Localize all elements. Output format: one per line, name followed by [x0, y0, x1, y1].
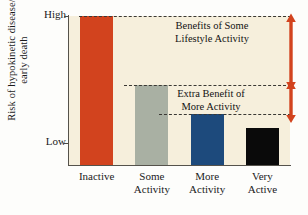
- x-axis-line: [68, 165, 291, 166]
- bar-inactive: [80, 16, 113, 165]
- bar-very-active: [246, 128, 279, 165]
- y-axis-label: Risk of hypokinetic disease/ early death: [6, 0, 30, 140]
- guide-line-some-activity-top: [124, 85, 291, 86]
- annotation-extra-benefit-of-more-activity: Extra Benefit of More Activity: [150, 88, 272, 113]
- guide-line-top: [79, 16, 291, 17]
- arrow-extra-benefit-range: [281, 80, 301, 124]
- annotation-benefits-of-some-lifestyle-activity: Benefits of Some Lifestyle Activity: [152, 20, 272, 45]
- x-axis-tick-very-active: Very Active: [229, 170, 295, 196]
- bar-more-activity: [191, 114, 224, 165]
- hypokinetic-risk-bar-chart: Risk of hypokinetic disease/ early death…: [0, 0, 308, 215]
- y-axis-tick-low: Low: [20, 135, 66, 147]
- y-axis-tick-high: High: [20, 8, 66, 20]
- guide-line-more-activity-top: [159, 114, 291, 115]
